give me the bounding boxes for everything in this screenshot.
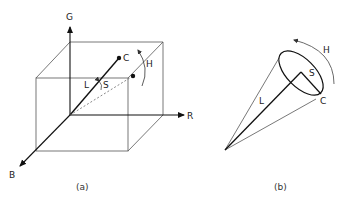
l-label: L xyxy=(259,96,264,106)
b-axis xyxy=(20,115,70,166)
s-label: S xyxy=(103,80,109,90)
gray-diagonal xyxy=(70,76,133,115)
cube-back-face xyxy=(70,42,163,115)
projected-point xyxy=(131,74,135,78)
hsl-cone-figure: C H L S (b) xyxy=(225,40,334,192)
lightness-vector xyxy=(225,72,301,150)
hue-arc xyxy=(138,50,145,86)
h-label: H xyxy=(146,59,153,69)
cone-side-right xyxy=(225,99,316,150)
b-axis-label: B xyxy=(9,170,15,180)
c-label: C xyxy=(123,53,129,63)
c-label: C xyxy=(320,96,326,106)
g-axis-label: G xyxy=(66,12,73,22)
lightness-vector xyxy=(70,58,119,115)
saturation-arc xyxy=(99,81,102,90)
caption-b: (b) xyxy=(274,182,287,192)
rgb-cube-figure: G R B C H L S (a) xyxy=(9,12,193,192)
cube-edges xyxy=(36,42,163,151)
l-label: L xyxy=(84,80,89,90)
s-label: S xyxy=(309,68,315,78)
h-label: H xyxy=(323,45,330,55)
cone-side-left xyxy=(225,58,279,150)
color-point-c xyxy=(117,56,121,60)
caption-a: (a) xyxy=(76,182,89,192)
hsl-diagram: G R B C H L S (a) C H L S (b) xyxy=(0,0,341,202)
r-axis-label: R xyxy=(187,111,193,121)
